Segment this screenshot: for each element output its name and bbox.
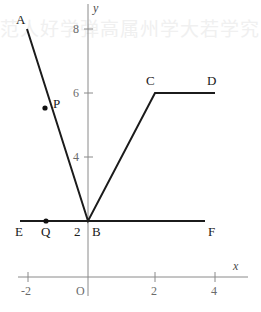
label-baseline-value-2: 2 (74, 224, 81, 240)
origin-label: O (76, 284, 85, 299)
label-point-Q: Q (41, 224, 50, 240)
graph-canvas (0, 0, 261, 312)
x-axis-label: x (233, 259, 238, 274)
piecewise-curve-ABCD (27, 29, 215, 221)
figure-root: 范人好学弹高属州学大若学究 A P C D E Q 2 B F 8 6 4 -2… (0, 0, 261, 312)
label-point-E: E (15, 224, 23, 240)
y-tick-label-6: 6 (73, 86, 79, 101)
point-marker-P (42, 105, 47, 110)
y-tick-label-8: 8 (73, 22, 79, 37)
y-tick-label-4: 4 (73, 150, 79, 165)
label-point-F: F (208, 224, 215, 240)
label-point-B: B (92, 224, 101, 240)
y-axis-label: y (93, 1, 98, 16)
x-tick-label-4: 4 (211, 284, 217, 299)
label-point-C: C (146, 73, 155, 89)
label-point-D: D (207, 73, 216, 89)
label-point-A: A (16, 12, 25, 28)
x-tick-label-2: 2 (151, 284, 157, 299)
point-marker-Q (43, 218, 48, 223)
x-tick-label-minus2: -2 (21, 284, 31, 299)
label-point-P: P (53, 96, 60, 112)
